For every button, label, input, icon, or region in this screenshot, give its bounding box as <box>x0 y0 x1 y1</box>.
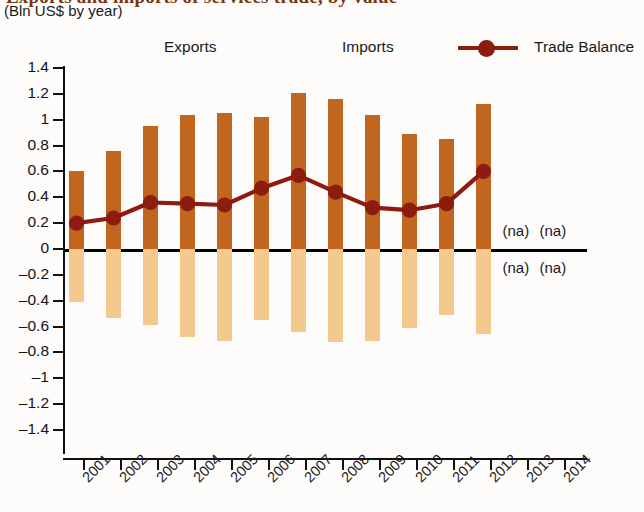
y-tick-label: 0.4 <box>3 189 49 203</box>
y-tick-label: –0.2 <box>3 267 49 281</box>
y-tick-label: 0 <box>3 241 49 255</box>
na-label: (na) <box>540 259 567 276</box>
trade-balance-point[interactable] <box>106 210 121 225</box>
legend-label-exports: Exports <box>164 38 217 56</box>
trade-balance-point[interactable] <box>69 216 84 231</box>
x-tick-label: 2013 <box>523 451 557 485</box>
trade-balance-point[interactable] <box>291 168 306 183</box>
legend-label-trade-balance: Trade Balance <box>534 38 634 56</box>
trade-balance-point[interactable] <box>254 181 269 196</box>
y-tick-label: –0.4 <box>3 293 49 307</box>
trade-balance-point[interactable] <box>328 185 343 200</box>
y-tick-label: 1 <box>3 112 49 126</box>
x-tick-label: 2012 <box>486 451 520 485</box>
trade-balance-point[interactable] <box>180 196 195 211</box>
y-tick-label: –1 <box>3 370 49 384</box>
legend-item-exports[interactable]: Exports <box>118 34 217 60</box>
plot-area: 1.41.210.80.60.40.20–0.2–0.4–0.6–0.8–1–1… <box>63 66 563 454</box>
services-trade-chart: Exports and imports of services trade, b… <box>0 0 644 512</box>
y-tick-label: 1.4 <box>3 60 49 74</box>
chart-legend: Exports Imports Trade Balance <box>118 34 638 60</box>
x-tick-label: 2014 <box>560 451 594 485</box>
trade-balance-point[interactable] <box>217 197 232 212</box>
y-tick-label: 0.8 <box>3 138 49 152</box>
x-tick-label: 2008 <box>338 451 372 485</box>
legend-item-trade-balance[interactable]: Trade Balance <box>458 34 634 60</box>
y-tick-label: –0.6 <box>3 319 49 333</box>
trade-balance-point[interactable] <box>439 196 454 211</box>
x-tick-label: 2011 <box>449 452 482 485</box>
trade-balance-line <box>77 171 484 223</box>
x-tick-label: 2010 <box>412 451 446 485</box>
x-tick-label: 2004 <box>190 451 224 485</box>
trade-balance-point[interactable] <box>365 200 380 215</box>
na-label: (na) <box>503 259 530 276</box>
y-tick-label: 0.2 <box>3 215 49 229</box>
x-tick-label: 2002 <box>116 451 150 485</box>
exports-swatch-icon <box>118 37 148 58</box>
imports-swatch-icon <box>296 37 326 58</box>
legend-item-imports[interactable]: Imports <box>296 34 394 60</box>
x-tick-label: 2007 <box>301 451 335 485</box>
x-tick-label: 2009 <box>375 451 409 485</box>
y-tick-label: –0.8 <box>3 344 49 358</box>
x-tick-label: 2001 <box>79 451 113 485</box>
y-tick-label: 0.6 <box>3 163 49 177</box>
x-tick-label: 2006 <box>264 451 298 485</box>
trade-balance-line-icon <box>458 37 518 58</box>
na-label: (na) <box>503 222 530 239</box>
y-tick-label: –1.2 <box>3 396 49 410</box>
x-tick-label: 2005 <box>227 451 261 485</box>
trade-balance-point[interactable] <box>143 195 158 210</box>
na-label: (na) <box>540 222 567 239</box>
trade-balance-point[interactable] <box>402 203 417 218</box>
y-tick-label: 1.2 <box>3 86 49 100</box>
chart-subtitle: (Bln US$ by year) <box>4 2 122 19</box>
x-tick-label: 2003 <box>153 451 187 485</box>
y-tick-label: –1.4 <box>3 422 49 436</box>
trade-balance-point[interactable] <box>476 164 491 179</box>
legend-label-imports: Imports <box>342 38 394 56</box>
